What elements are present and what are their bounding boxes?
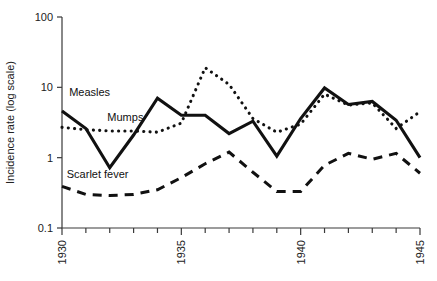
x-tick-label-1935: 1935 (175, 240, 187, 264)
chart-canvas: 1001010.11930193519401945Incidence rate … (0, 0, 437, 281)
x-tick-label-1930: 1930 (56, 240, 68, 264)
x-tick-label-1940: 1940 (295, 240, 307, 264)
x-tick-label-1945: 1945 (414, 240, 426, 264)
y-tick-label-1: 1 (47, 152, 53, 164)
series-line-measles (62, 88, 420, 168)
y-axis-title: Incidence rate (log scale) (4, 61, 16, 184)
y-tick-label-10: 10 (41, 81, 53, 93)
y-tick-label-100: 100 (35, 11, 53, 23)
series-label-measles: Measles (69, 86, 110, 98)
y-tick-label-0.1: 0.1 (38, 222, 53, 234)
series-label-mumps: Mumps (107, 111, 144, 123)
series-label-scarlet-fever: Scarlet fever (67, 168, 129, 180)
incidence-rate-chart: 1001010.11930193519401945Incidence rate … (0, 0, 437, 281)
